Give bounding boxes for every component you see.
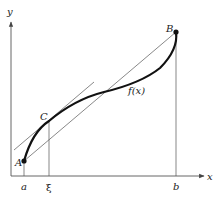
secant-line-ab — [24, 32, 176, 161]
y-axis-label: y — [6, 6, 13, 17]
label-point-a: A — [14, 157, 22, 168]
point-b — [173, 29, 178, 34]
mvt-diagram: y x A B C f(x) a ξ b — [0, 0, 218, 198]
tick-label-xi: ξ — [46, 182, 52, 193]
label-point-c: C — [40, 111, 48, 122]
tick-label-b: b — [173, 181, 179, 192]
x-axis-label: x — [207, 171, 213, 182]
tick-label-a: a — [21, 181, 27, 192]
label-curve-f: f(x) — [127, 85, 145, 96]
label-point-b: B — [165, 23, 173, 34]
